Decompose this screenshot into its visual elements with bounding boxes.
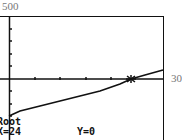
y-readout: Y=0 [77,127,95,136]
trace-cursor[interactable] [126,75,136,83]
plot [0,0,182,140]
function-line [9,70,163,116]
root-label: Root [0,117,21,126]
x-readout: X=24 [0,127,21,136]
